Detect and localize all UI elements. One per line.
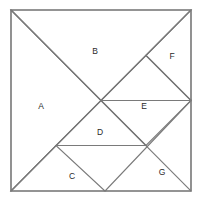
tangram-diagram: A B C D E F G [0, 0, 203, 205]
tangram-canvas [0, 0, 203, 205]
piece-label-a: A [38, 102, 44, 111]
piece-label-g: G [159, 168, 166, 177]
piece-label-f: F [169, 52, 174, 61]
piece-label-b: B [92, 47, 98, 56]
piece-label-d: D [97, 128, 103, 137]
piece-label-c: C [69, 172, 75, 181]
piece-label-e: E [141, 102, 147, 111]
